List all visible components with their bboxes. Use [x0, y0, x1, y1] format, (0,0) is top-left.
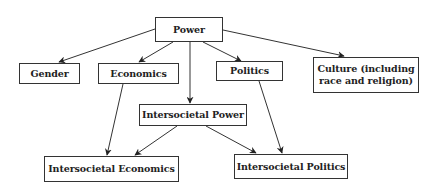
node-intersocietal-economics-label: Intersocietal Economics: [48, 163, 174, 175]
edge-intersocietal-power-intersocietal-economics: [135, 126, 177, 155]
node-intersocietal-economics: Intersocietal Economics: [44, 156, 179, 182]
node-intersocietal-politics: Intersocietal Politics: [234, 154, 348, 179]
node-power: Power: [155, 17, 223, 42]
node-economics: Economics: [98, 63, 179, 84]
edge-power-economics: [139, 42, 173, 62]
edge-power-politics: [203, 42, 241, 61]
node-power-label: Power: [173, 24, 205, 36]
node-intersocietal-power-label: Intersocietal Power: [142, 109, 244, 121]
edge-economics-intersocietal-economics: [107, 84, 123, 155]
power-diagram: Power Gender Economics Politics Culture …: [0, 0, 438, 194]
node-culture-label-line1: Culture (including: [317, 63, 414, 75]
node-economics-label: Economics: [110, 68, 167, 80]
node-culture-label-line2: race and religion): [319, 75, 413, 87]
node-politics: Politics: [216, 61, 283, 81]
node-gender-label: Gender: [30, 68, 68, 80]
node-culture: Culture (including race and religion): [313, 57, 419, 93]
node-intersocietal-politics-label: Intersocietal Politics: [237, 161, 346, 173]
edge-politics-intersocietal-politics: [259, 81, 282, 153]
edge-power-culture: [223, 30, 344, 56]
edge-power-gender: [59, 29, 155, 62]
node-intersocietal-power: Intersocietal Power: [139, 104, 247, 126]
edge-intersocietal-power-intersocietal-politics: [206, 126, 256, 153]
node-politics-label: Politics: [230, 65, 269, 77]
node-gender: Gender: [19, 63, 80, 84]
